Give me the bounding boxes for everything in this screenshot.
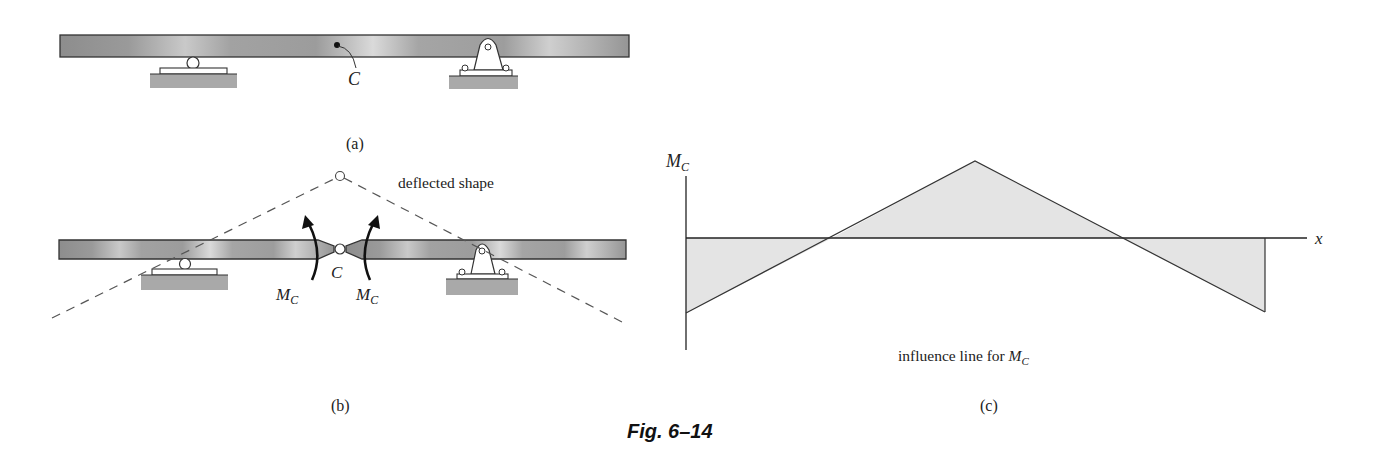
il-region-middle [832,161,1121,238]
beam-a [60,35,629,57]
x-axis-label: x [1314,229,1323,248]
deflected-shape-label: deflected shape [398,174,494,191]
panel-b [52,172,626,323]
beam-b-left [59,240,334,259]
influence-line-caption: influence line for MC [898,347,1030,367]
moment-right-label: MC [355,285,379,307]
point-c-dot [334,42,340,48]
panel-c-influence-line [686,161,1307,350]
point-c-label-a: C [348,69,361,89]
roller-support-b [141,259,228,291]
y-axis-label: MC [665,151,690,174]
panel-label-a: (a) [346,135,364,153]
figure-canvas: C (a) [0,0,1373,473]
panel-a [60,35,629,89]
figure-caption: Fig. 6–14 [627,420,713,442]
panel-label-b: (b) [331,397,350,415]
hinge-label-b: C [331,263,343,282]
deflected-apex-hinge [336,172,345,181]
hinge-c [335,244,345,254]
roller-support-a [150,57,237,88]
moment-left-label: MC [275,285,299,307]
panel-label-c: (c) [980,397,998,415]
